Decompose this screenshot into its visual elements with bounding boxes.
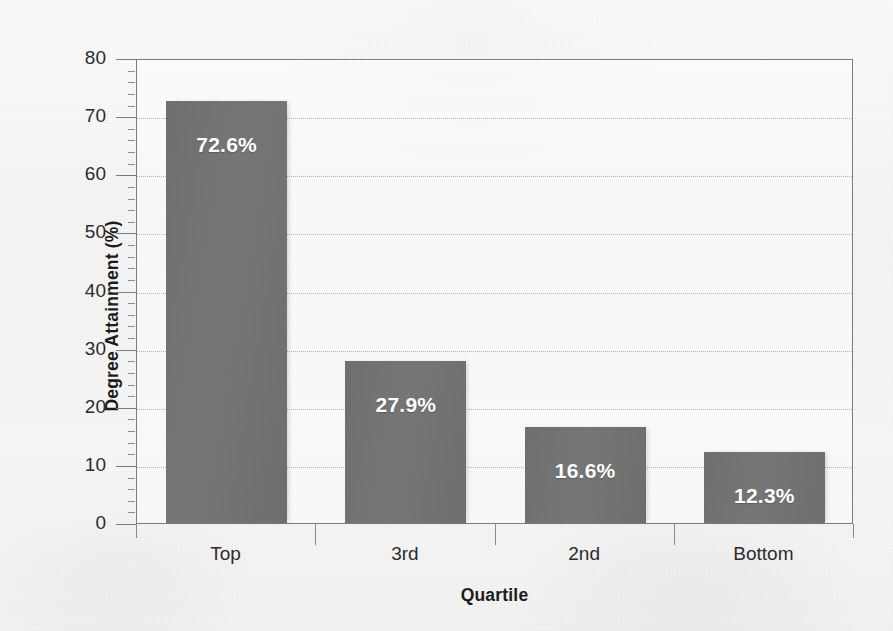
- y-tick-minor: [128, 454, 135, 455]
- y-tick-minor: [128, 512, 135, 513]
- y-tick-minor: [128, 71, 135, 72]
- y-tick-minor: [128, 443, 135, 444]
- y-tick-major-0: [116, 524, 136, 525]
- x-tick: [495, 524, 496, 545]
- chart-figure: Degree Attainment (%) 01020304050607080 …: [0, 0, 893, 631]
- y-tick-minor: [128, 222, 135, 223]
- x-tick: [853, 524, 854, 538]
- bar-3rd: 27.9%: [345, 361, 466, 523]
- x-tick: [674, 524, 675, 545]
- y-axis-title: Degree Attainment (%): [102, 220, 123, 411]
- y-tick-minor: [128, 94, 135, 95]
- y-tick-minor: [128, 280, 135, 281]
- y-tick-minor: [128, 140, 135, 141]
- y-tick-minor: [128, 489, 135, 490]
- y-tick-minor: [128, 431, 135, 432]
- y-tick-label-50: 50: [62, 221, 106, 243]
- y-tick-minor: [128, 396, 135, 397]
- y-tick-label-30: 30: [62, 338, 106, 360]
- x-axis-title: Quartile: [136, 585, 853, 606]
- y-tick-minor: [128, 187, 135, 188]
- bar-value-label: 16.6%: [525, 459, 646, 483]
- y-tick-major-30: [116, 350, 136, 351]
- y-tick-minor: [128, 338, 135, 339]
- plot-area: 72.6%27.9%16.6%12.3%: [136, 59, 853, 524]
- x-tick-label-3rd: 3rd: [315, 543, 494, 565]
- y-tick-label-80: 80: [62, 47, 106, 69]
- y-tick-minor: [128, 478, 135, 479]
- y-tick-minor: [128, 257, 135, 258]
- y-tick-minor: [128, 385, 135, 386]
- x-tick-label-top: Top: [136, 543, 315, 565]
- x-tick: [136, 524, 137, 538]
- y-tick-major-20: [116, 408, 136, 409]
- bar-value-label: 12.3%: [704, 484, 825, 508]
- y-tick-minor: [128, 315, 135, 316]
- y-tick-label-20: 20: [62, 396, 106, 418]
- y-tick-label-70: 70: [62, 105, 106, 127]
- bar-bottom: 12.3%: [704, 452, 825, 523]
- y-tick-minor: [128, 419, 135, 420]
- x-tick-label-2nd: 2nd: [495, 543, 674, 565]
- y-tick-major-60: [116, 175, 136, 176]
- y-tick-label-40: 40: [62, 280, 106, 302]
- y-tick-major-10: [116, 466, 136, 467]
- x-tick: [315, 524, 316, 545]
- y-tick-minor: [128, 210, 135, 211]
- y-tick-minor: [128, 82, 135, 83]
- bar-value-label: 72.6%: [166, 133, 287, 157]
- y-tick-minor: [128, 326, 135, 327]
- y-tick-minor: [128, 199, 135, 200]
- x-tick-label-bottom: Bottom: [674, 543, 853, 565]
- y-tick-minor: [128, 164, 135, 165]
- bar-value-label: 27.9%: [345, 393, 466, 417]
- y-tick-label-60: 60: [62, 163, 106, 185]
- y-tick-major-70: [116, 117, 136, 118]
- y-tick-major-80: [116, 59, 136, 60]
- y-tick-minor: [128, 501, 135, 502]
- y-tick-minor: [128, 361, 135, 362]
- y-tick-minor: [128, 303, 135, 304]
- y-tick-major-50: [116, 233, 136, 234]
- y-tick-label-10: 10: [62, 454, 106, 476]
- y-tick-label-0: 0: [62, 512, 106, 534]
- y-tick-minor: [128, 106, 135, 107]
- y-tick-minor: [128, 373, 135, 374]
- y-tick-minor: [128, 245, 135, 246]
- y-tick-minor: [128, 268, 135, 269]
- y-tick-minor: [128, 129, 135, 130]
- y-tick-minor: [128, 152, 135, 153]
- bar-2nd: 16.6%: [525, 427, 646, 523]
- bar-top: 72.6%: [166, 101, 287, 523]
- y-tick-major-40: [116, 292, 136, 293]
